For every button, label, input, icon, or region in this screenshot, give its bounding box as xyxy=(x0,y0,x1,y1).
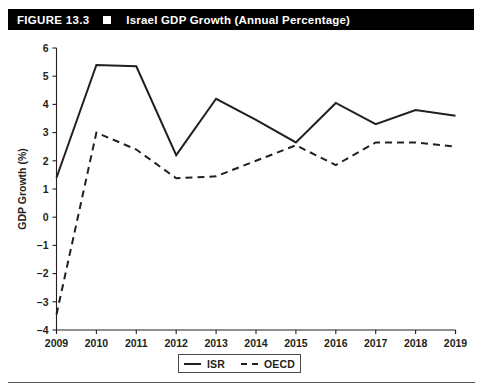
y-tick-label: –4 xyxy=(37,324,49,336)
y-tick-label: 4 xyxy=(43,98,49,110)
x-tick-label: 2016 xyxy=(324,337,348,349)
figure-title-bar: FIGURE 13.3 Israel GDP Growth (Annual Pe… xyxy=(8,9,474,30)
footer-divider xyxy=(8,382,475,383)
y-tick-label: 1 xyxy=(43,183,49,195)
x-tick-label: 2013 xyxy=(204,337,228,349)
x-tick-label: 2018 xyxy=(404,337,428,349)
y-tick-label: –1 xyxy=(37,239,49,251)
x-tick-label: 2010 xyxy=(85,337,109,349)
y-tick-label: 6 xyxy=(43,42,49,54)
chart-legend: ISR OECD xyxy=(178,354,301,373)
y-tick-label: 3 xyxy=(43,126,49,138)
legend-entry-isr: ISR xyxy=(184,358,225,370)
legend-label-isr: ISR xyxy=(207,358,225,370)
chart-plot-area: 6543210–1–2–3–4 200920102011201220132014… xyxy=(0,34,483,354)
y-axis-title: GDP Growth (%) xyxy=(16,148,28,229)
x-tick-label: 2011 xyxy=(125,337,148,349)
x-axis: 2009201020112012201320142015201620172018… xyxy=(45,330,468,349)
x-tick-label: 2015 xyxy=(284,337,308,349)
figure-title-text: Israel GDP Growth (Annual Percentage) xyxy=(126,14,350,26)
x-tick-label: 2009 xyxy=(45,337,69,349)
series-line-oecd xyxy=(57,133,456,315)
y-tick-label: –3 xyxy=(37,296,49,308)
legend-line-swatch-dashed-icon xyxy=(241,363,258,365)
white-square-bullet-icon xyxy=(103,16,111,24)
y-axis: 6543210–1–2–3–4 xyxy=(37,42,57,336)
data-series-group xyxy=(57,65,456,315)
figure-number-label: FIGURE 13.3 xyxy=(17,14,89,26)
x-tick-label: 2017 xyxy=(364,337,388,349)
y-tick-label: 0 xyxy=(43,211,49,223)
y-tick-label: –2 xyxy=(37,267,49,279)
x-tick-label: 2014 xyxy=(244,337,268,349)
x-tick-label: 2012 xyxy=(165,337,189,349)
legend-line-swatch-solid-icon xyxy=(184,363,201,365)
x-tick-label: 2019 xyxy=(444,337,468,349)
line-chart-svg: 6543210–1–2–3–4 200920102011201220132014… xyxy=(0,34,483,354)
y-tick-label: 2 xyxy=(43,155,49,167)
legend-entry-oecd: OECD xyxy=(241,358,295,370)
y-tick-label: 5 xyxy=(43,70,49,82)
legend-label-oecd: OECD xyxy=(264,358,295,370)
